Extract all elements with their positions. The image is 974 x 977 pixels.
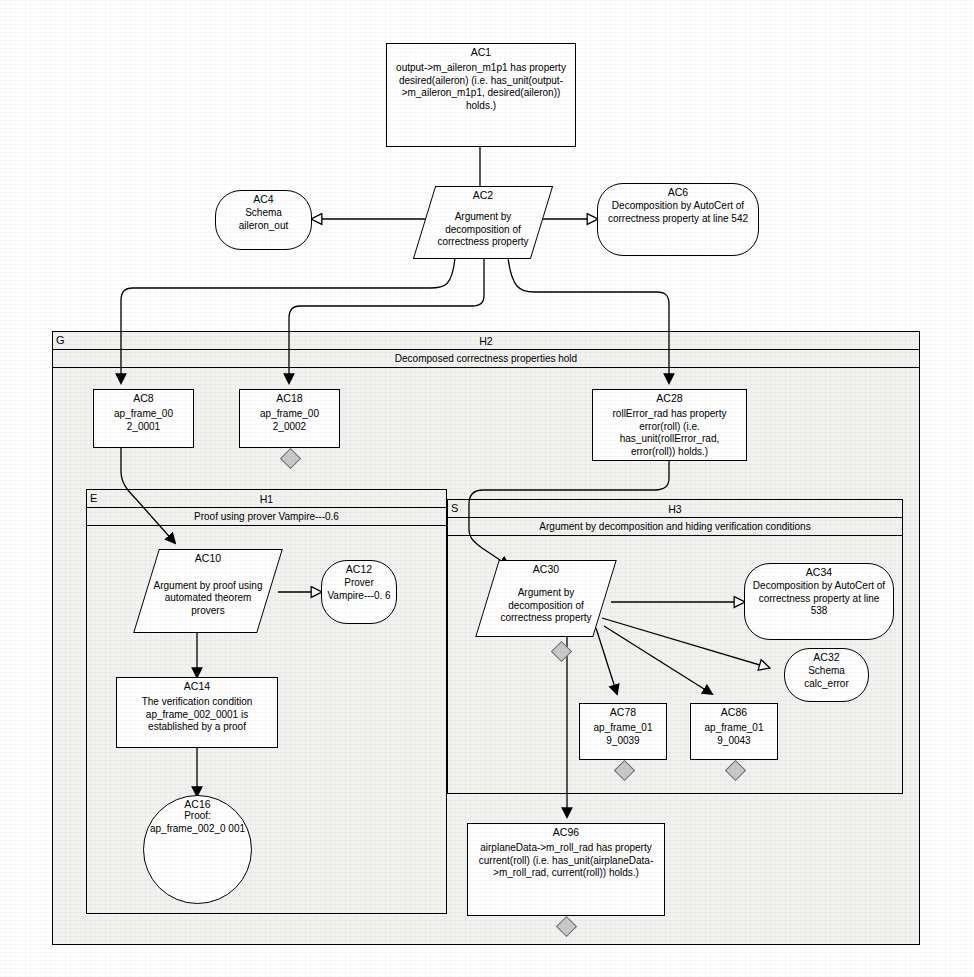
node-ac32-text: Schema calc_error xyxy=(785,665,868,690)
module-g-h2-subtitle: Decomposed correctness properties hold xyxy=(53,350,919,368)
module-e-h1-subtitle: Proof using prover Vampire---0.6 xyxy=(87,508,446,526)
node-ac16-text: Proof: ap_frame_002_0 001 xyxy=(144,810,251,835)
node-ac78-text: ap_frame_01 9_0039 xyxy=(580,722,666,747)
node-ac10-id: AC10 xyxy=(195,552,221,564)
node-ac1[interactable]: AC1 output->m_aileron_m1p1 has property … xyxy=(386,43,576,147)
node-ac18-id: AC18 xyxy=(276,392,302,404)
node-ac10-text: Argument by proof using automated theore… xyxy=(146,580,270,618)
node-ac14-text: The verification condition ap_frame_002_… xyxy=(117,696,277,734)
node-ac14-id: AC14 xyxy=(184,680,210,692)
node-ac8-text: ap_frame_00 2_0001 xyxy=(94,408,193,433)
node-ac2[interactable]: AC2 Argument by decomposition of correct… xyxy=(424,186,542,259)
node-ac4[interactable]: AC4 Schema aileron_out xyxy=(215,190,312,250)
node-ac2-id: AC2 xyxy=(473,189,493,201)
diagram-canvas: G H2 Decomposed correctness properties h… xyxy=(0,0,974,977)
module-s-h3-tag: S xyxy=(451,501,458,515)
node-ac34-id: AC34 xyxy=(806,566,832,578)
node-ac28[interactable]: AC28 rollError_rad has property error(ro… xyxy=(592,389,747,461)
node-ac86[interactable]: AC86 ap_frame_01 9_0043 xyxy=(690,703,778,760)
node-ac6[interactable]: AC6 Decomposition by AutoCert of correct… xyxy=(597,183,759,256)
node-ac30[interactable]: AC30 Argument by decomposition of correc… xyxy=(487,560,605,637)
node-ac4-id: AC4 xyxy=(253,193,273,205)
node-ac16-id: AC16 xyxy=(184,798,210,810)
module-e-h1-header: E H1 xyxy=(87,490,446,508)
node-ac1-id: AC1 xyxy=(471,46,491,58)
node-ac4-text: Schema aileron_out xyxy=(216,207,311,232)
node-ac12[interactable]: AC12 Prover Vampire---0. 6 xyxy=(321,560,397,624)
node-ac14[interactable]: AC14 The verification condition ap_frame… xyxy=(116,677,278,748)
module-s-h3-subtitle: Argument by decomposition and hiding ver… xyxy=(448,518,902,536)
node-ac16[interactable]: AC16 Proof: ap_frame_002_0 001 xyxy=(143,795,252,904)
node-ac32-id: AC32 xyxy=(813,651,839,663)
node-ac2-text: Argument by decomposition of correctness… xyxy=(424,211,542,249)
module-g-h2-header: G H2 xyxy=(53,332,919,350)
node-ac28-id: AC28 xyxy=(656,392,682,404)
module-g-h2-id: H2 xyxy=(479,334,492,348)
node-ac8-id: AC8 xyxy=(133,392,153,404)
node-ac86-text: ap_frame_01 9_0043 xyxy=(691,722,777,747)
node-ac12-text: Prover Vampire---0. 6 xyxy=(322,577,396,602)
node-ac8[interactable]: AC8 ap_frame_00 2_0001 xyxy=(93,389,194,448)
module-g-h2-tag: G xyxy=(56,333,65,347)
node-ac6-text: Decomposition by AutoCert of correctness… xyxy=(598,200,758,225)
node-ac1-text: output->m_aileron_m1p1 has property desi… xyxy=(387,62,575,112)
node-ac18[interactable]: AC18 ap_frame_00 2_0002 xyxy=(239,389,340,448)
node-ac96[interactable]: AC96 airplaneData->m_roll_rad has proper… xyxy=(467,823,665,916)
node-ac18-text: ap_frame_00 2_0002 xyxy=(240,408,339,433)
node-ac86-id: AC86 xyxy=(721,706,747,718)
node-ac6-id: AC6 xyxy=(668,186,688,198)
node-ac30-text: Argument by decomposition of correctness… xyxy=(487,587,605,625)
module-s-h3-id: H3 xyxy=(668,502,681,516)
node-ac96-id: AC96 xyxy=(553,826,579,838)
node-ac78[interactable]: AC78 ap_frame_01 9_0039 xyxy=(579,703,667,760)
node-ac12-id: AC12 xyxy=(346,563,372,575)
node-ac32[interactable]: AC32 Schema calc_error xyxy=(784,648,869,702)
module-e-h1-id: H1 xyxy=(260,492,273,506)
node-ac10[interactable]: AC10 Argument by proof using automated t… xyxy=(146,549,270,633)
module-e-h1-tag: E xyxy=(90,491,97,505)
node-ac34[interactable]: AC34 Decomposition by AutoCert of correc… xyxy=(744,563,894,640)
node-ac96-text: airplaneData->m_roll_rad has property cu… xyxy=(468,842,664,880)
module-s-h3-header: S H3 xyxy=(448,500,902,518)
node-ac28-text: rollError_rad has property error(roll) (… xyxy=(593,408,746,458)
module-s-h3: S H3 Argument by decomposition and hidin… xyxy=(447,499,903,794)
node-ac78-id: AC78 xyxy=(610,706,636,718)
node-ac30-id: AC30 xyxy=(533,563,559,575)
node-ac34-text: Decomposition by AutoCert of correctness… xyxy=(745,580,893,618)
